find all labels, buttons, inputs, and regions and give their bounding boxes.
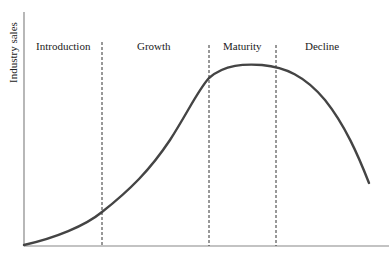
product-life-cycle-diagram bbox=[0, 0, 389, 256]
stage-label-maturity: Maturity bbox=[223, 40, 262, 52]
stage-label-growth: Growth bbox=[137, 40, 171, 52]
y-axis-label: Industry sales bbox=[7, 22, 19, 83]
sales-curve bbox=[24, 65, 369, 245]
stage-label-introduction: Introduction bbox=[36, 40, 90, 52]
stage-label-decline: Decline bbox=[305, 40, 339, 52]
